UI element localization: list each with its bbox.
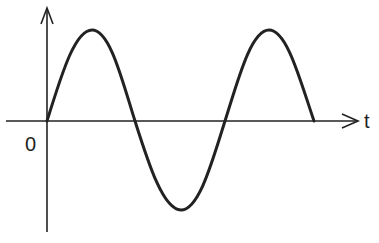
sine-wave-diagram: 0 t xyxy=(0,0,379,243)
sine-curve xyxy=(47,30,314,210)
origin-label: 0 xyxy=(25,133,36,155)
time-axis-label: t xyxy=(364,110,370,132)
